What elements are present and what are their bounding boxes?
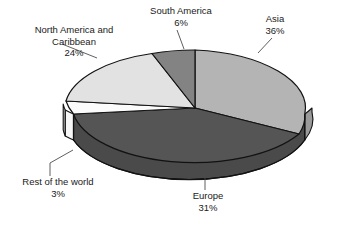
slice-label-europe: Europe 31% [178,190,238,213]
pie-chart-figure: North America and Caribbean 24% South Am… [0,0,344,228]
slice-label-rest-of-world-text: Rest of the world [5,176,111,188]
slice-value-south-america: 6% [131,17,231,29]
slice-label-north-america-line2: Caribbean [14,36,134,48]
slice-label-south-america-text: South America [131,5,231,17]
north-america-side-face [63,104,65,136]
slice-value-asia: 36% [246,25,304,37]
slice-value-europe: 31% [178,202,238,214]
slice-label-rest-of-world: Rest of the world 3% [5,176,111,199]
asia-side-face [305,108,313,140]
slice-label-europe-text: Europe [178,190,238,202]
slice-label-asia-text: Asia [246,13,304,25]
rest-of-world-side-face [65,110,73,140]
slice-label-north-america-line1: North America and [14,24,134,36]
slice-label-north-america: North America and Caribbean 24% [14,24,134,59]
leader-line-south-america [177,30,184,49]
slice-label-south-america: South America 6% [131,5,231,28]
leader-line-rest-of-world [50,150,73,176]
leader-line-asia [258,38,272,53]
slice-value-north-america: 24% [14,47,134,59]
slice-label-asia: Asia 36% [246,13,304,36]
slice-value-rest-of-world: 3% [5,188,111,200]
